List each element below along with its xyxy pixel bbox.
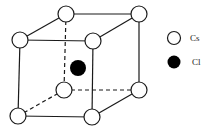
cs-atom-icon [56, 82, 72, 98]
legend-cl-icon [168, 56, 181, 69]
edge [92, 41, 93, 117]
legend-label-cs: Cs [190, 33, 200, 43]
cl-atom-icon [70, 60, 86, 76]
cs-atom-icon [85, 33, 101, 49]
cs-atom-icon [131, 82, 147, 98]
edge [20, 40, 93, 41]
cs-atom-icon [84, 109, 100, 125]
edge [18, 116, 92, 117]
cs-atom-icon [12, 32, 28, 48]
cs-atom-icon [10, 108, 26, 124]
legend-cs-icon [168, 32, 181, 45]
hidden-edge [64, 14, 66, 90]
legend-label-cl: Cl [192, 57, 201, 67]
cs-atom-icon [58, 6, 74, 22]
cscl-unit-cell-diagram [0, 0, 212, 127]
cs-atom-icon [131, 6, 147, 22]
edge [18, 40, 20, 116]
